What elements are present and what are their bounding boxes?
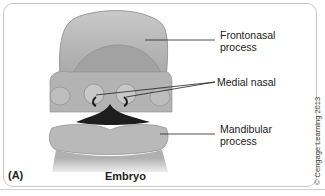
mandibular-label-line1: Mandibular (220, 123, 272, 135)
medial-nasal-label-line1: Medial nasal (217, 76, 276, 88)
frontonasal-label-line2: process (220, 41, 275, 53)
left-lateral-bump (50, 87, 70, 105)
right-lateral-bump (150, 88, 170, 106)
embryo-illustration (0, 0, 325, 196)
copyright-notice: © Cengage Learning 2013 (313, 97, 322, 185)
mandibular-label-line2: process (220, 135, 272, 147)
mandibular-label: Mandibular process (220, 123, 272, 147)
medial-nasal-label: Medial nasal (217, 76, 276, 88)
mandibular-process-shape (49, 124, 168, 154)
frontonasal-label: Frontonasal process (220, 29, 275, 53)
figure-caption: Embryo (105, 170, 146, 182)
frontonasal-label-line1: Frontonasal (220, 29, 275, 41)
panel-label: (A) (8, 169, 23, 181)
